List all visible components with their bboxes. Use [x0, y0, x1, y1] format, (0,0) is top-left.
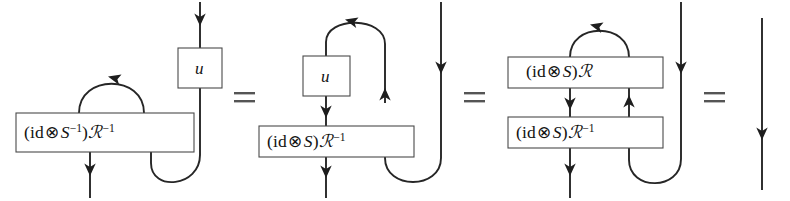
p2-close-paren: ) [313, 131, 319, 151]
tensor-product-icon: ⊗ [44, 123, 61, 142]
p1-r-exponent: −1 [103, 122, 115, 134]
panel-4-wires [756, 18, 767, 190]
equals-3-glyph [704, 92, 725, 102]
p2-id-text: id [273, 131, 287, 151]
p3-bottom-close-paren: ) [562, 122, 568, 142]
p3-top-close-paren: ) [572, 61, 578, 81]
tensor-product-icon: ⊗ [546, 62, 563, 81]
tensor-product-icon: ⊗ [536, 123, 553, 142]
string-diagram-figure: u (id⊗S−1)ℛ−1 u (id⊗S)ℛ−1 (id⊗S)ℛ (id⊗S)… [0, 0, 790, 201]
panel-2-wires [259, 2, 447, 198]
p3-top-id-text: id [532, 61, 546, 81]
p1-bottom-uturn [151, 152, 200, 182]
p2-r-matrix-symbol: ℛ [319, 131, 334, 151]
equals-2-glyph [464, 92, 485, 102]
p3-bottom-uturn [629, 2, 681, 183]
p3-bottom-r-exponent: −1 [582, 122, 594, 134]
p1-antipode-symbol: S [61, 122, 70, 142]
tensor-product-icon: ⊗ [287, 132, 304, 151]
p3-bottom-antipode-symbol: S [553, 122, 562, 142]
p3-operator-top-label: (id⊗S)ℛ [526, 63, 592, 81]
p2-r-exponent: −1 [333, 131, 345, 143]
p1-id-text: id [30, 122, 44, 142]
p2-antipode-symbol: S [304, 131, 313, 151]
p3-operator-bottom-label: (id⊗S)ℛ−1 [516, 123, 595, 142]
p1-r-matrix-symbol: ℛ [88, 122, 103, 142]
p1-top-cap-arc [79, 84, 144, 113]
diagram-canvas [0, 0, 790, 201]
panel-3-wires [508, 2, 687, 198]
p1-u-label: u [195, 60, 204, 77]
p3-top-cap-arc [570, 31, 629, 57]
p3-bottom-r-matrix-symbol: ℛ [568, 122, 583, 142]
p3-bottom-id-text: id [522, 122, 536, 142]
p2-operator-label: (id⊗S)ℛ−1 [267, 132, 346, 151]
p3-top-r-matrix-symbol: ℛ [578, 61, 593, 81]
p3-top-antipode-symbol: S [563, 61, 572, 81]
p2-u-label: u [321, 68, 330, 85]
panel-1-wires [16, 2, 222, 198]
equals-1-glyph [234, 92, 255, 102]
p1-antipode-exponent: −1 [70, 122, 82, 134]
p1-operator-label: (id⊗S−1)ℛ−1 [24, 123, 115, 142]
